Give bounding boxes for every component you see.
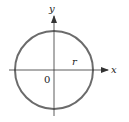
origin-label: 0 [44, 74, 50, 85]
radius-label: r [72, 56, 78, 67]
diagram-canvas: y x r 0 [0, 0, 129, 122]
circle-diagram: y x r 0 [0, 0, 129, 122]
y-axis-label: y [48, 3, 55, 14]
x-axis-label: x [111, 64, 117, 75]
